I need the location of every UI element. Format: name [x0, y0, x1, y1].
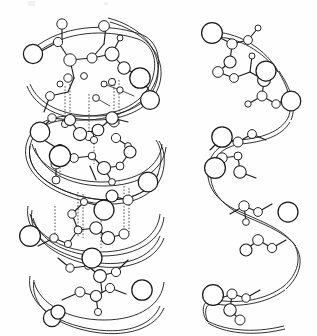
molecular-structure-diagram: [0, 0, 317, 336]
figure-root: [0, 0, 317, 336]
